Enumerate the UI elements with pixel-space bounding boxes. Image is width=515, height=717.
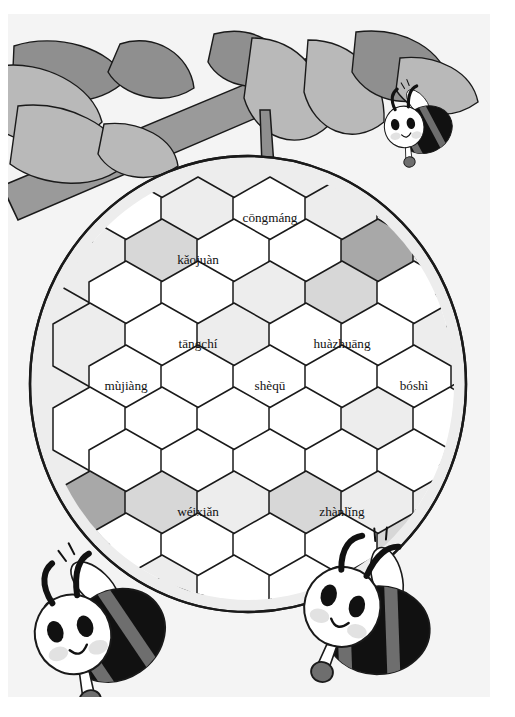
cell-mujiang-label: mùjiàng — [104, 378, 148, 393]
cell-zhanling-label: zhànlǐng — [319, 504, 365, 519]
scene-svg: cōngmángkǎojuàntāngchíhuàzhuāngmùjiàngsh… — [8, 14, 490, 697]
cell-tangchi-label: tāngchí — [179, 336, 218, 351]
cell-congmang-label: cōngmáng — [243, 210, 298, 225]
cell-huazhuang-label: huàzhuāng — [313, 336, 371, 351]
illustration-canvas: cōngmángkǎojuàntāngchíhuàzhuāngmùjiàngsh… — [8, 14, 490, 697]
cell-boshi-label: bóshì — [400, 378, 429, 393]
cell-shequ-label: shèqū — [255, 378, 286, 393]
cell-kaojuan-label: kǎojuàn — [177, 252, 219, 267]
worksheet-page: cōngmángkǎojuàntāngchíhuàzhuāngmùjiàngsh… — [0, 0, 515, 717]
cell-weixian-label: wéixiǎn — [177, 504, 219, 519]
